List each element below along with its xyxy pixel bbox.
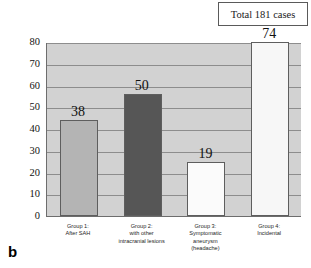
y-tick-label-80: 80 <box>10 36 40 47</box>
bar-value-label-4: 74 <box>249 26 289 42</box>
x-category-line: Group 4: <box>229 223 309 230</box>
y-tick-label-70: 70 <box>10 58 40 69</box>
bar-value-label-3: 19 <box>185 146 225 162</box>
y-tick-label-30: 30 <box>10 145 40 156</box>
x-category-line: (headache) <box>165 245 245 252</box>
bar-value-label-2: 50 <box>122 78 162 94</box>
y-tick-label-10: 10 <box>10 188 40 199</box>
total-cases-text: Total 181 cases <box>231 9 296 20</box>
y-tick-label-50: 50 <box>10 101 40 112</box>
bar-group-4 <box>251 42 289 216</box>
x-category-line: aneurysm <box>165 238 245 245</box>
total-cases-box: Total 181 cases <box>218 2 308 26</box>
chart-plot-area <box>46 43 301 217</box>
y-tick-label-0: 0 <box>10 210 40 221</box>
x-category-label-4: Group 4:Incidental <box>229 223 309 238</box>
panel-letter: b <box>8 243 17 260</box>
y-tick-label-40: 40 <box>10 123 40 134</box>
bar-group-1 <box>60 120 98 216</box>
bar-group-2 <box>124 94 162 216</box>
y-tick-label-20: 20 <box>10 167 40 178</box>
x-category-line: Incidental <box>229 230 309 237</box>
y-tick-label-60: 60 <box>10 80 40 91</box>
bar-group-3 <box>187 162 225 216</box>
bar-value-label-1: 38 <box>58 104 98 120</box>
